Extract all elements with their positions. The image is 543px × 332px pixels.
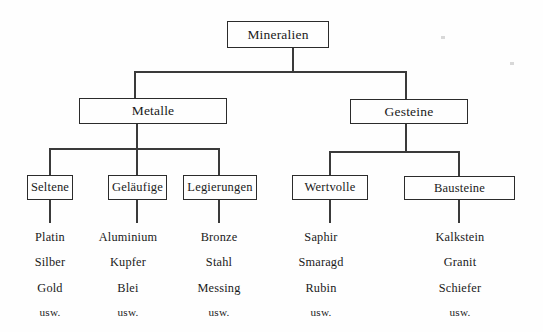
node-bausteine-label: Bausteine <box>434 181 485 196</box>
leaf-column-wertvolle: Saphir Smaragd Rubin usw. <box>271 231 371 318</box>
leaf-column-bausteine: Kalkstein Granit Schiefer usw. <box>410 231 510 318</box>
leaf-column-gelaeufige: Aluminium Kupfer Blei usw. <box>78 231 178 318</box>
leaf-item: Saphir <box>304 231 337 243</box>
node-seltene-label: Seltene <box>31 180 69 195</box>
leaf-item: Silber <box>35 256 66 268</box>
connector-level2-bus <box>134 71 407 73</box>
connector-bausteine-stem <box>458 200 460 223</box>
connector-to-legierungen <box>218 148 220 175</box>
node-metalle: Metalle <box>79 98 227 124</box>
leaf-item-etc: usw. <box>450 307 471 318</box>
node-mineralien: Mineralien <box>227 21 329 48</box>
connector-legierungen-stem <box>218 200 220 223</box>
leaf-column-legierungen: Bronze Stahl Messing usw. <box>169 231 269 318</box>
scan-speck <box>510 62 514 65</box>
connector-gesteine-bus <box>329 151 460 153</box>
node-wertvolle-label: Wertvolle <box>305 180 356 195</box>
connector-gelaeufige-stem <box>136 200 138 223</box>
leaf-item: Schiefer <box>439 282 482 294</box>
node-gesteine: Gesteine <box>350 99 468 124</box>
connector-to-wertvolle <box>329 151 331 176</box>
node-mineralien-label: Mineralien <box>247 27 308 43</box>
leaf-item: Gold <box>37 282 62 294</box>
leaf-item: Smaragd <box>298 256 343 268</box>
connector-to-bausteine <box>458 151 460 176</box>
leaf-item: Blei <box>117 282 138 294</box>
connector-mineralien-stem <box>292 48 294 71</box>
connector-to-metalle <box>134 71 136 98</box>
leaf-item: Kalkstein <box>436 231 485 243</box>
leaf-item-etc: usw. <box>209 307 230 318</box>
node-legierungen-label: Legierungen <box>187 180 252 195</box>
leaf-item-etc: usw. <box>40 307 61 318</box>
leaf-item: Granit <box>444 256 477 268</box>
scan-speck <box>441 36 445 39</box>
leaf-item: Kupfer <box>110 256 146 268</box>
connector-seltene-stem <box>49 200 51 223</box>
node-gelaeufige-label: Geläufige <box>112 180 163 195</box>
node-metalle-label: Metalle <box>132 103 175 119</box>
connector-to-seltene <box>49 148 51 175</box>
connector-metalle-stem <box>136 124 138 150</box>
leaf-item: Platin <box>35 231 65 243</box>
node-gesteine-label: Gesteine <box>385 104 434 120</box>
mineral-classification-diagram: Mineralien Metalle Gesteine Seltene Gelä… <box>0 0 543 332</box>
leaf-item: Rubin <box>305 282 336 294</box>
leaf-item-etc: usw. <box>311 307 332 318</box>
node-legierungen: Legierungen <box>183 175 257 200</box>
connector-to-gesteine <box>405 71 407 99</box>
node-wertvolle: Wertvolle <box>292 175 368 200</box>
node-gelaeufige: Geläufige <box>108 175 167 200</box>
node-bausteine: Bausteine <box>404 176 515 200</box>
leaf-item-etc: usw. <box>118 307 139 318</box>
node-seltene: Seltene <box>27 175 73 200</box>
leaf-item: Stahl <box>206 256 232 268</box>
leaf-item: Bronze <box>201 231 238 243</box>
leaf-item: Messing <box>197 282 240 294</box>
leaf-item: Aluminium <box>99 231 158 243</box>
connector-wertvolle-stem <box>329 200 331 223</box>
connector-metalle-bus <box>49 148 220 150</box>
connector-gesteine-stem <box>405 124 407 152</box>
connector-to-gelaeufige <box>136 148 138 175</box>
